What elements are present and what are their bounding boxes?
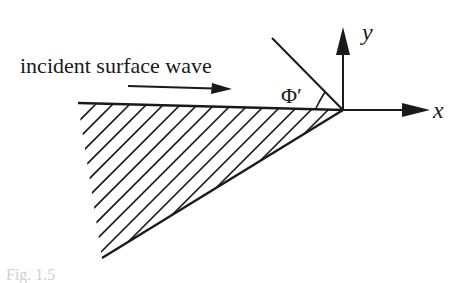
incident-wave-arrow-shaft xyxy=(128,86,214,89)
x-axis-arrowhead-icon xyxy=(402,103,430,117)
wedge-lower-face xyxy=(102,110,343,258)
incident-wave-label: incident surface wave xyxy=(20,55,212,77)
angle-arc xyxy=(316,92,325,108)
y-axis-label: y xyxy=(362,20,373,44)
y-axis-arrowhead-icon xyxy=(336,27,350,55)
hatched-wedge-region xyxy=(60,100,338,279)
x-axis-label: x xyxy=(433,98,444,122)
figure-caption-fragment: Fig. 1.5 xyxy=(6,267,55,283)
incident-wave-arrowhead-icon xyxy=(211,83,232,94)
angle-phi-prime-label: Φ′ xyxy=(281,85,302,107)
